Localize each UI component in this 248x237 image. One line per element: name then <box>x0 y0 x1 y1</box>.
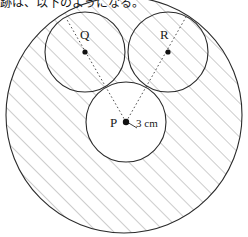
figure-page: 跡は、以下のようになる。 <box>0 0 248 237</box>
label-r: R <box>160 28 169 41</box>
label-radius-dimension: 3 cm <box>136 117 158 130</box>
geometry-diagram <box>0 0 248 237</box>
center-dot-r <box>165 49 170 54</box>
center-dot-p <box>123 119 129 125</box>
center-dot-q <box>82 49 87 54</box>
label-p: P <box>110 116 117 129</box>
label-q: Q <box>80 28 89 41</box>
